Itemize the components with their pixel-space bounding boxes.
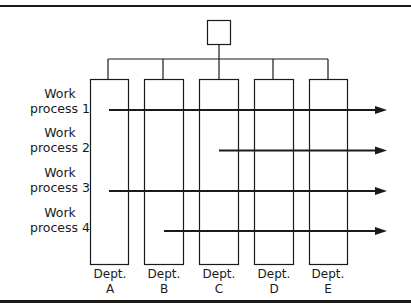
top-management-box — [208, 21, 231, 45]
dept-c-letter: C — [194, 282, 244, 297]
dept-e-name: Dept. — [303, 267, 353, 282]
dept-a-label: Dept. A — [85, 267, 135, 297]
dept-c-column — [200, 80, 239, 265]
process-3-label-line2: process 3 — [12, 180, 108, 195]
dept-d-column — [255, 80, 294, 265]
process-1-label: Work process 1 — [12, 86, 108, 116]
dept-d-label: Dept. D — [249, 267, 299, 297]
dept-b-letter: B — [139, 282, 189, 297]
process-2-arrow — [219, 147, 387, 155]
dept-a-name: Dept. — [85, 267, 135, 282]
process-3-label: Work process 3 — [12, 165, 108, 195]
process-4-arrow — [164, 227, 387, 235]
process-1-label-line2: process 1 — [12, 101, 108, 116]
dept-b-label: Dept. B — [139, 267, 189, 297]
dept-c-label: Dept. C — [194, 267, 244, 297]
dept-e-label: Dept. E — [303, 267, 353, 297]
process-4-label-line1: Work — [12, 205, 108, 220]
process-3-label-line1: Work — [12, 165, 108, 180]
bottom-border-rule — [0, 300, 411, 303]
process-1-arrow — [109, 106, 387, 114]
dept-e-column — [310, 80, 348, 265]
process-2-label: Work process 2 — [12, 125, 108, 155]
process-1-label-line1: Work — [12, 86, 108, 101]
dept-d-name: Dept. — [249, 267, 299, 282]
process-4-label: Work process 4 — [12, 205, 108, 235]
process-2-label-line1: Work — [12, 125, 108, 140]
process-4-label-line2: process 4 — [12, 220, 108, 235]
dept-a-letter: A — [85, 282, 135, 297]
dept-e-letter: E — [303, 282, 353, 297]
process-3-arrow — [109, 187, 387, 195]
dept-d-letter: D — [249, 282, 299, 297]
process-2-label-line2: process 2 — [12, 140, 108, 155]
dept-b-name: Dept. — [139, 267, 189, 282]
dept-c-name: Dept. — [194, 267, 244, 282]
dept-b-column — [145, 80, 184, 265]
